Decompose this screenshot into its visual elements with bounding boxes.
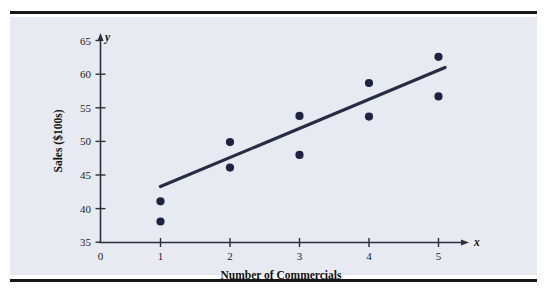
- y-axis-variable-label: y: [103, 31, 111, 44]
- y-tick-label-65: 65: [80, 35, 92, 47]
- y-tick-label-40: 40: [80, 203, 92, 215]
- data-point: [156, 217, 164, 225]
- x-tick-label-2: 2: [227, 250, 233, 262]
- y-tick-label-50: 50: [80, 135, 92, 147]
- x-tick-label-1: 1: [158, 250, 164, 262]
- data-point: [434, 92, 442, 100]
- y-tick-label-60: 60: [80, 68, 92, 80]
- axes-group: [97, 33, 469, 246]
- figure-container: 65 60 55 50 45 40 35 0 1 2 3 4 5 y x Num…: [0, 0, 547, 294]
- data-point: [295, 151, 303, 159]
- x-axis-title: Number of Commercials: [221, 269, 342, 281]
- regression-line: [161, 68, 446, 187]
- y-axis-title: Sales ($100s): [52, 109, 65, 172]
- data-point: [365, 113, 373, 121]
- data-point: [295, 112, 303, 120]
- x-tick-label-5: 5: [436, 250, 442, 262]
- x-axis-arrow-icon: [461, 239, 469, 245]
- y-tick-labels: 65 60 55 50 45 40 35: [80, 35, 92, 249]
- x-tick-labels: 0 1 2 3 4 5: [98, 250, 442, 262]
- data-point: [365, 79, 373, 87]
- y-tick-label-35: 35: [80, 236, 92, 248]
- data-point: [434, 53, 442, 61]
- x-tick-label-4: 4: [366, 250, 372, 262]
- data-point: [156, 197, 164, 205]
- x-tick-label-0: 0: [98, 250, 104, 262]
- scatter-plot: 65 60 55 50 45 40 35 0 1 2 3 4 5 y x Num…: [0, 0, 547, 294]
- x-tick-label-3: 3: [297, 250, 303, 262]
- y-tick-label-45: 45: [80, 169, 92, 181]
- data-points-group: [156, 53, 442, 226]
- y-tick-label-55: 55: [80, 102, 92, 114]
- data-point: [226, 138, 234, 146]
- data-point: [226, 164, 234, 172]
- x-axis-variable-label: x: [473, 236, 480, 248]
